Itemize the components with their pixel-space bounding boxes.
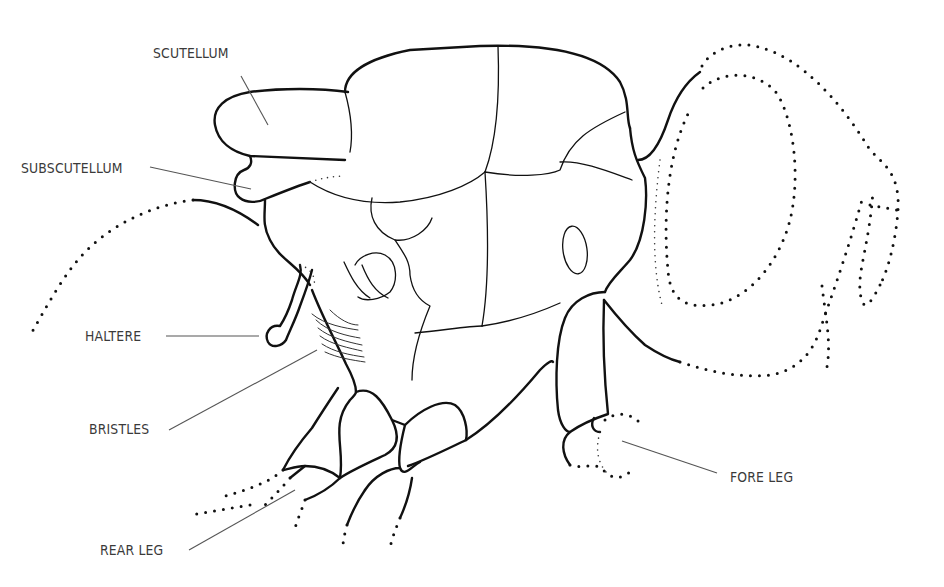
leader-line-bristles [169,350,317,430]
label-scutellum: SCUTELLUM [153,45,229,61]
label-bristles: BRISTLES [89,421,149,437]
label-fore-leg: FORE LEG [730,469,793,485]
thorax-body-outline [193,46,700,525]
label-subscutellum: SUBSCUTELLUM [21,160,123,176]
leader-line-rear-leg [189,490,295,550]
thorax-diagram: SCUTELLUM SUBSCUTELLUM HALTERE BRISTLES … [0,0,944,587]
label-rear-leg: REAR LEG [100,542,163,558]
label-haltere: HALTERE [85,328,141,344]
thorax-drawing [0,0,944,587]
bristles [312,310,365,362]
leader-line-fore-leg [622,441,717,473]
leader-line-scutellum [241,76,268,125]
dotted-fine-outlines [300,160,662,472]
